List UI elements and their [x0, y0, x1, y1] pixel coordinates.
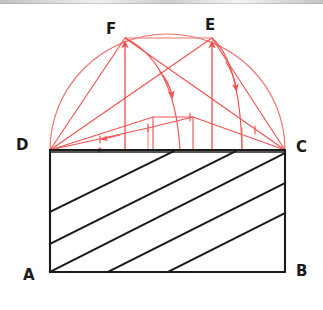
point-label-d: D [16, 138, 28, 153]
point-label-e: E [205, 18, 215, 33]
chord-f-c [125, 38, 285, 150]
chord-d-e [50, 38, 212, 150]
rectangle-layer [50, 150, 285, 272]
point-label-b: B [296, 264, 307, 279]
inner-upper-polyline [50, 117, 285, 150]
chord-e-c [212, 38, 285, 150]
diagonal-hatch-lines [50, 151, 285, 272]
hatch-line [50, 153, 285, 272]
inner-lower-polyline [50, 117, 193, 150]
hatch-line [168, 213, 285, 272]
geometry-figure [0, 0, 323, 310]
point-label-f: F [106, 22, 116, 37]
construction-layer [50, 34, 285, 150]
hatch-line [50, 151, 174, 212]
point-label-c: C [296, 140, 307, 155]
semicircle-on-dc [50, 34, 285, 150]
chord-d-f [50, 38, 125, 150]
point-label-a: A [23, 268, 35, 283]
